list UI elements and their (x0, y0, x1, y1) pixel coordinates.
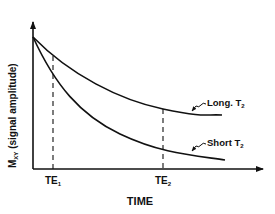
long-t2-pointer-icon (192, 103, 206, 111)
long-t2-label: Long. T2 (207, 97, 245, 109)
short-t2-pointer-icon (192, 143, 206, 151)
te2-label: TE2 (155, 175, 172, 187)
long-t2-curve (33, 37, 222, 115)
y-axis-title: MXY (signal amplitude) (7, 63, 19, 168)
short-t2-label: Short T2 (207, 137, 244, 149)
te1-label: TE1 (45, 175, 62, 187)
t2-decay-diagram: Long. T2 Short T2 TE1 TE2 TIME MXY (sign… (0, 0, 275, 214)
x-axis-title: TIME (127, 195, 153, 207)
